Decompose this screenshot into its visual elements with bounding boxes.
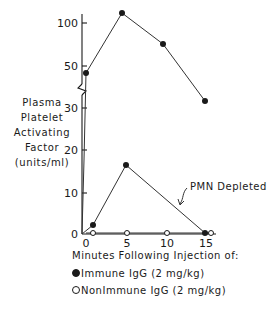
x-tick-5: 5 [124, 237, 131, 250]
marker-immune-15 [202, 98, 208, 104]
marker-nonimmune-16 [209, 231, 214, 236]
legend-item-nonimmune: NonImmune IgG (2 mg/kg) [72, 285, 226, 296]
series-immune-upper-line [86, 13, 205, 101]
marker-nonimmune-10 [165, 231, 170, 236]
marker-immune-10 [160, 41, 166, 47]
y-tick-0: 0 [71, 228, 78, 241]
marker-pmn-1 [90, 222, 96, 228]
marker-nonimmune-1 [91, 231, 96, 236]
filled-circle-icon [72, 269, 80, 277]
y-label-line: Plasma [4, 95, 80, 110]
x-tick-10: 10 [160, 237, 174, 250]
marker-pmn-5 [123, 162, 129, 168]
marker-immune-1 [83, 70, 89, 76]
series-immune-line [82, 73, 86, 234]
legend-item-immune: Immune IgG (2 mg/kg) [72, 268, 205, 279]
marker-pmn-15 [202, 230, 208, 236]
x-tick-15: 15 [199, 237, 213, 250]
y-label-line: Activating [4, 125, 80, 140]
x-axis-label: Minutes Following Injection of: [72, 250, 239, 261]
open-circle-icon [72, 286, 80, 294]
marker-immune-5 [119, 10, 125, 16]
legend-label: NonImmune IgG (2 mg/kg) [81, 285, 226, 296]
y-label-line: (units/ml) [4, 155, 80, 170]
annotation-pmn-depleted: PMN Depleted [190, 181, 267, 192]
x-tick-0: 0 [83, 237, 90, 250]
y-tick-50: 50 [64, 60, 78, 73]
axis-break-icon [78, 84, 86, 95]
y-tick-100: 100 [57, 17, 78, 30]
y-label-line: Platelet [4, 110, 80, 125]
series-pmn-depleted-line [82, 165, 205, 234]
legend-label: Immune IgG (2 mg/kg) [81, 268, 205, 279]
y-axis-label: Plasma Platelet Activating Factor (units… [4, 95, 80, 170]
y-tick-10: 10 [64, 187, 78, 200]
marker-nonimmune-5 [125, 231, 130, 236]
y-label-line: Factor [4, 140, 80, 155]
